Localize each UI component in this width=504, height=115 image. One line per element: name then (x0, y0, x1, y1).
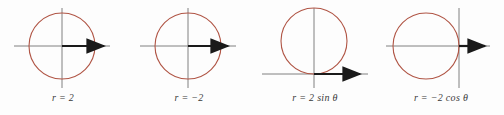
polar-plot-1 (0, 0, 126, 92)
panel-equation-label-4: r = −2 cos θ (378, 92, 504, 103)
panel-equation-label-2: r = −2 (126, 92, 252, 103)
panel-equation-label-1: r = 2 (0, 92, 126, 103)
polar-plot-4 (378, 0, 504, 92)
polar-figure-strip: r = 2 r = −2 (0, 0, 504, 115)
polar-plot-2 (126, 0, 252, 92)
panel-equation-label-3: r = 2 sin θ (252, 92, 378, 103)
polar-plot-3 (252, 0, 378, 92)
figure-panel-3: r = 2 sin θ (252, 0, 378, 115)
figure-panel-2: r = −2 (126, 0, 252, 115)
figure-panel-4: r = −2 cos θ (378, 0, 504, 115)
figure-panel-1: r = 2 (0, 0, 126, 115)
